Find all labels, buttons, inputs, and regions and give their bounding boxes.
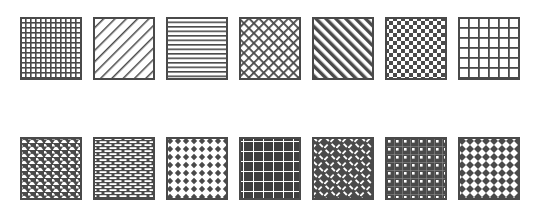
swatch-brick: Brick [93,137,155,200]
swatch-fish-scales: Fish scales [20,137,82,200]
swatch-large-diamonds: Large diamonds [458,137,520,200]
swatch-horizontal-lines: Horizontal lines [166,17,228,80]
swatch-checkerboard: Checkerboard [385,17,447,80]
swatch-fine-grid: Fine square grid [20,17,82,80]
swatch-coarse-grid: Coarse square grid [458,17,520,80]
swatch-dark-with-white-grid: Dark with white grid [239,137,301,200]
swatch-dark-plaid-dots: Dark plaid with white dots [385,137,447,200]
swatch-thick-diagonal-slash: Thick diagonal stripes (slash) [312,17,374,80]
swatch-diagonal-backslash: Thin diagonal lines (backslash) [93,17,155,80]
swatch-small-diamonds: Small diamonds [166,137,228,200]
swatch-diagonal-crosshatch: Diagonal crosshatch [239,17,301,80]
swatch-basketweave: Basketweave [312,137,374,200]
